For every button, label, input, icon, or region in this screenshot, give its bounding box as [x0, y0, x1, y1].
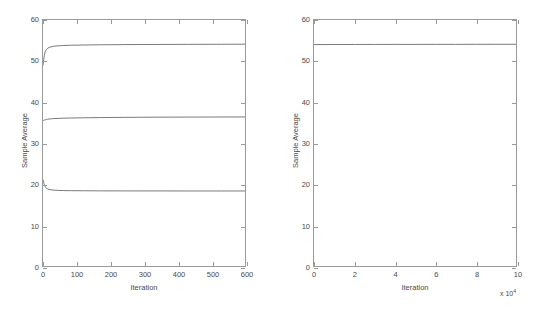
x-tick — [314, 20, 315, 24]
plot-area-right: 0102030405060 0246810 — [313, 19, 517, 267]
x-tick — [145, 20, 146, 24]
y-tick — [43, 185, 47, 186]
x-tick — [436, 262, 437, 266]
y-tick-label: 50 — [302, 58, 310, 66]
plot-area-left: 0102030405060 0100200300400500600 — [42, 19, 246, 267]
y-tick — [241, 268, 245, 269]
x-axis-title-right: Iteration — [401, 283, 428, 292]
y-tick — [512, 185, 516, 186]
y-tick-label: 10 — [31, 223, 39, 231]
series-line — [43, 117, 245, 121]
y-tick-label: 30 — [31, 140, 39, 148]
x-tick-label: 4 — [394, 271, 398, 279]
x-tick — [396, 20, 397, 24]
y-tick-label: 40 — [31, 99, 39, 107]
y-axis-title-left: Sample Average — [20, 111, 29, 171]
y-tick-label: 60 — [302, 16, 310, 24]
x-tick-label: 0 — [41, 271, 45, 279]
y-tick — [314, 144, 318, 145]
x-tick-label: 10 — [514, 271, 522, 279]
x-axis-title-left: Iteration — [130, 283, 157, 292]
x-tick — [179, 20, 180, 24]
x-tick — [213, 20, 214, 24]
y-tick — [241, 103, 245, 104]
x-tick-label: 400 — [173, 271, 186, 279]
x-tick-label: 200 — [105, 271, 118, 279]
y-tick — [512, 268, 516, 269]
y-tick — [43, 103, 47, 104]
y-tick — [241, 185, 245, 186]
x-tick — [43, 262, 44, 266]
x-tick — [213, 262, 214, 266]
y-tick — [241, 20, 245, 21]
x-tick-label: 100 — [71, 271, 84, 279]
exponent-power: 4 — [513, 288, 516, 294]
y-tick — [43, 61, 47, 62]
x-tick-label: 600 — [241, 271, 254, 279]
x-tick — [43, 20, 44, 24]
x-tick — [396, 262, 397, 266]
x-tick — [477, 20, 478, 24]
x-tick — [247, 262, 248, 266]
y-tick-label: 20 — [302, 182, 310, 190]
x-tick-label: 2 — [353, 271, 357, 279]
x-tick-label: 0 — [312, 271, 316, 279]
x-tick — [77, 262, 78, 266]
y-tick — [241, 144, 245, 145]
y-tick — [512, 227, 516, 228]
exponent-base: x 10 — [500, 290, 513, 297]
y-tick — [43, 227, 47, 228]
series-line — [43, 179, 245, 190]
y-tick-label: 60 — [31, 16, 39, 24]
x-tick — [518, 262, 519, 266]
x-tick — [111, 20, 112, 24]
y-tick-label: 0 — [35, 264, 39, 272]
y-tick-label: 30 — [302, 140, 310, 148]
y-tick — [512, 20, 516, 21]
y-tick — [314, 103, 318, 104]
x-tick — [314, 262, 315, 266]
x-tick — [179, 262, 180, 266]
y-tick — [241, 227, 245, 228]
x-axis-exponent-right: x 104 — [500, 288, 516, 297]
x-tick-label: 300 — [139, 271, 152, 279]
chart-panel-left: 0102030405060 0100200300400500600 Iterat… — [0, 0, 272, 309]
x-tick — [111, 262, 112, 266]
y-tick-label: 10 — [302, 223, 310, 231]
y-tick-label: 0 — [306, 264, 310, 272]
x-tick — [355, 262, 356, 266]
y-tick — [512, 61, 516, 62]
y-tick — [314, 227, 318, 228]
y-tick — [314, 61, 318, 62]
x-tick — [436, 20, 437, 24]
x-tick-label: 6 — [434, 271, 438, 279]
y-tick — [43, 144, 47, 145]
x-tick — [145, 262, 146, 266]
y-tick — [241, 61, 245, 62]
x-tick — [477, 262, 478, 266]
y-tick — [314, 268, 318, 269]
figure-canvas: 0102030405060 0100200300400500600 Iterat… — [0, 0, 544, 309]
y-tick-label: 40 — [302, 99, 310, 107]
y-tick — [314, 185, 318, 186]
x-tick-label: 500 — [207, 271, 220, 279]
y-tick — [512, 144, 516, 145]
y-tick — [512, 103, 516, 104]
y-axis-title-right: Sample Average — [291, 111, 300, 171]
x-tick — [77, 20, 78, 24]
series-line — [43, 44, 245, 65]
y-tick — [43, 268, 47, 269]
chart-panel-right: 0102030405060 0246810 Iteration Sample A… — [272, 0, 544, 309]
y-tick-label: 50 — [31, 58, 39, 66]
plot-lines-right — [314, 20, 516, 266]
y-tick-label: 20 — [31, 182, 39, 190]
x-tick — [247, 20, 248, 24]
plot-lines-left — [43, 20, 245, 266]
x-tick-label: 8 — [475, 271, 479, 279]
x-tick — [518, 20, 519, 24]
x-tick — [355, 20, 356, 24]
